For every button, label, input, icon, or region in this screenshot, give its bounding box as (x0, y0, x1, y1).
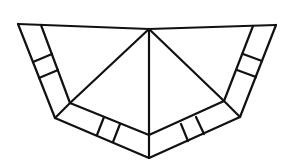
crossbar-line (196, 117, 204, 134)
corner-joins (55, 101, 240, 118)
inner-outline-path (41, 25, 253, 135)
diagram-canvas (0, 0, 288, 166)
crossbar-line (113, 124, 120, 142)
apex-line (70, 29, 149, 103)
crossbar-line (237, 70, 256, 77)
crossbar-line (243, 54, 262, 61)
corner-join-line (55, 103, 70, 118)
apex-line (149, 29, 224, 101)
corner-join-line (224, 101, 240, 117)
outer-outline-path (18, 24, 276, 158)
crossbar-line (181, 124, 188, 141)
inner-outline (41, 25, 253, 135)
outer-outline (18, 24, 276, 158)
top-edge (18, 24, 276, 29)
crossbar-line (33, 54, 52, 62)
top-edge-path (18, 24, 276, 29)
crossbar-line (39, 70, 58, 78)
channel-frame-diagram (0, 0, 288, 166)
crossbar-line (97, 117, 104, 135)
apex-lines (70, 29, 224, 158)
